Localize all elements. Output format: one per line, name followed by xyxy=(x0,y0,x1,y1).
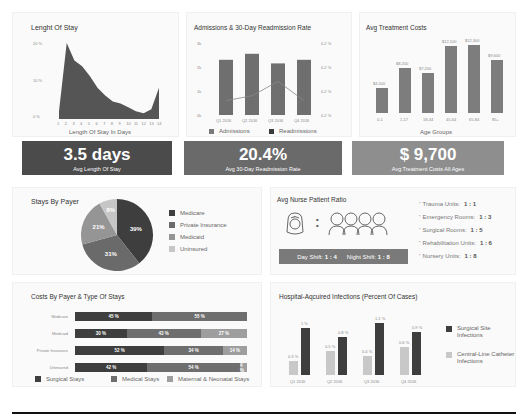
legend-label: Readmissions xyxy=(279,128,317,134)
cost-bar xyxy=(491,60,503,113)
shift-ratio-bar: Day Shift: 1 : 4 Night Shift: 1 : 8 xyxy=(279,249,408,264)
nurse-ratio-panel: Avg Nurse Patient Ratio + : Day Shift: 1… xyxy=(270,187,516,275)
unit-label: Emergency Rooms: xyxy=(423,214,476,220)
bar-segment: 52 % xyxy=(75,346,164,355)
y-tick-right: 0.2 % xyxy=(321,65,331,70)
x-tick: Q3 2016 xyxy=(268,118,283,123)
kpi-label: Avg Length Of Stay xyxy=(22,165,172,173)
infections-panel: Hospital-Aqcuired Infections (Percent Of… xyxy=(270,282,516,387)
x-tick: Q2 2016 xyxy=(242,118,257,123)
central-line-bar xyxy=(363,356,372,375)
bar-segment: 4 % xyxy=(240,363,247,372)
stays-by-payer-panel: Stays By Payer 39%31%21%8% Medicare Priv… xyxy=(12,187,262,275)
surgical-site-bar xyxy=(301,328,310,375)
central-line-bar xyxy=(289,361,298,375)
kpi-label: Avg 30-Day Readmission Rate xyxy=(184,165,342,173)
bar-value-label: 0.9 % xyxy=(412,325,422,330)
length-of-stay-title: Lenght Of Stay xyxy=(31,24,78,31)
unit-ratio: 1 : 8 xyxy=(465,253,477,259)
patients-icon xyxy=(327,210,393,236)
x-tick: Q1 2016 xyxy=(216,118,231,123)
x-axis-label: Age Groups xyxy=(420,129,452,135)
row-label: Medicare xyxy=(13,314,68,319)
cost-bar xyxy=(445,46,457,113)
legend-readmissions: Readmissions xyxy=(269,128,317,134)
bar-segment: 55 % xyxy=(152,312,247,321)
pie-label: 31% xyxy=(105,251,118,257)
kpi-label: Avg Treatment Costs All Ages xyxy=(352,165,504,173)
x-tick: 9 xyxy=(119,121,121,126)
y-tick: 10 % xyxy=(33,78,42,83)
y-tick-right: 0.2 % xyxy=(321,113,331,118)
unit-ratio: 1 : 3 xyxy=(479,214,491,220)
admissions-bar-line-chart xyxy=(213,43,319,115)
stays-by-payer-pie: 39%31%21%8% xyxy=(79,197,155,273)
legend-central-line: Central-Line Catheter Infections xyxy=(446,351,516,365)
bottom-divider xyxy=(12,412,516,414)
row-label: Private Insurance xyxy=(13,348,68,353)
x-tick: 65-84 xyxy=(469,117,479,122)
legend-maternal-neonatal-stays: Maternal & Neonatal Stays xyxy=(167,376,249,382)
kpi-tile: 3.5 daysAvg Length Of Stay xyxy=(22,141,172,175)
bar-segment: 27 % xyxy=(201,329,247,338)
legend-label: Medicare xyxy=(180,210,205,216)
bullet: * xyxy=(419,240,421,245)
day-shift-value: 1 : 4 xyxy=(325,254,337,260)
unit-ratio: 1 : 1 xyxy=(464,201,476,207)
pie-label: 8% xyxy=(106,207,115,213)
night-shift-label: Night Shift: xyxy=(347,254,376,260)
admissions-title: Admissions & 30-Day Readmission Rate xyxy=(194,24,311,31)
bar-value-label: $7,200 xyxy=(419,66,431,71)
bullet: * xyxy=(419,227,421,232)
stays-by-payer-title: Stays By Payer xyxy=(31,198,79,205)
bar-segment: 14 % xyxy=(223,346,247,355)
bullet: * xyxy=(419,214,421,219)
legend-label: Maternal & Neonatal Stays xyxy=(178,376,249,382)
stacked-bar: 30 %43 %27 % xyxy=(75,329,247,338)
day-shift: Day Shift: 1 : 4 xyxy=(297,254,337,260)
costs-by-payer-title: Costs By Payer & Type Of Stays xyxy=(31,293,124,300)
night-shift: Night Shift: 1 : 8 xyxy=(347,254,390,260)
kpi-tile: 20.4%Avg 30-Day Readmission Rate xyxy=(184,141,342,175)
x-tick: Q3 2016 xyxy=(364,379,379,384)
legend-label: Surgical Site Infections xyxy=(457,325,516,339)
row-label: Medicaid xyxy=(13,331,68,336)
infections-title: Hospital-Aqcuired Infections (Percent Of… xyxy=(279,293,417,300)
bar-segment: 30 % xyxy=(75,329,127,338)
admissions-bar xyxy=(245,54,259,115)
nurse-ratio-title: Avg Nurse Patient Ratio xyxy=(277,196,346,203)
y-tick-left: 3k xyxy=(197,41,201,46)
bar-value-label: 0.8 % xyxy=(338,330,348,335)
admissions-bar xyxy=(271,63,285,115)
x-tick: 1-17 xyxy=(400,117,408,122)
x-tick: Q2 2016 xyxy=(327,379,342,384)
x-tick: 3 xyxy=(72,121,74,126)
x-tick: 45-64 xyxy=(446,117,456,122)
unit-label: Nursery Units: xyxy=(423,253,461,259)
x-tick: Q1 2016 xyxy=(290,379,305,384)
x-ticks: Q1 2016Q2 2016Q3 2016Q4 2016 xyxy=(213,118,319,124)
y-tick-right: 0.2 % xyxy=(321,41,331,46)
unit-ratio: 1 : 5 xyxy=(471,227,483,233)
surgical-site-bar xyxy=(338,337,347,375)
unit-ratio: 1 : 6 xyxy=(480,240,492,246)
central-line-bar xyxy=(326,351,335,375)
y-tick-left: 1k xyxy=(197,89,201,94)
bar-value-label: $12,100 xyxy=(442,39,456,44)
bullet: * xyxy=(419,201,421,206)
x-ticks: 1234567891011121314 xyxy=(59,121,159,127)
ratio-unit-item: *Trauma Units:1 : 1 xyxy=(419,201,476,207)
bar-value-label: $4,500 xyxy=(373,81,385,86)
nurse-icon: + xyxy=(284,210,306,236)
bar-value-label: 0.6 % xyxy=(399,340,409,345)
legend-label: Admissions xyxy=(219,128,250,134)
kpi-value: 20.4% xyxy=(184,145,342,165)
bar-segment: 42 % xyxy=(75,363,147,372)
x-tick: 85+ xyxy=(492,117,499,122)
x-axis-label: Length Of Stay In Days xyxy=(69,129,131,135)
stacked-bar: 52 %34 %14 % xyxy=(75,346,247,355)
x-tick: 14 xyxy=(157,121,161,126)
bar-value-label: 1 % xyxy=(301,321,308,326)
x-tick: 12 xyxy=(142,121,146,126)
bar-segment: 45 % xyxy=(75,312,152,321)
